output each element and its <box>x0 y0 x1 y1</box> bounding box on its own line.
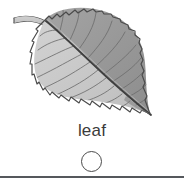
answer-bubble[interactable] <box>81 151 102 172</box>
leaf-illustration <box>0 0 184 122</box>
bottom-divider <box>0 176 184 178</box>
item-label: leaf <box>0 120 184 141</box>
leaf-illustration-svg <box>0 0 184 122</box>
worksheet-item: leaf <box>0 0 184 189</box>
